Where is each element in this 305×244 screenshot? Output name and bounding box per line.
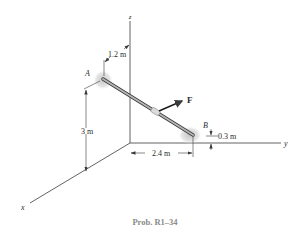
point-b-label: B — [203, 121, 208, 130]
statics-diagram: z y x 3 m 1.2 m F A B 2.4 m 0.3 m Prob. … — [0, 0, 305, 244]
dim-1.2m-arrow-right — [124, 45, 129, 49]
x-axis — [30, 143, 130, 203]
point-a-label: A — [84, 69, 90, 78]
y-axis-label: y — [283, 139, 288, 148]
figure-caption: Prob. R1–34 — [132, 217, 178, 227]
dim-2.4m-label: 2.4 m — [152, 149, 171, 158]
z-axis-label: z — [128, 13, 132, 21]
dim-1.2m-label: 1.2 m — [108, 50, 127, 59]
x-axis-label: x — [20, 203, 25, 212]
force-arrow — [159, 101, 182, 111]
dim-3m-label: 3 m — [81, 127, 94, 136]
force-label: F — [187, 95, 193, 105]
rod — [103, 79, 193, 135]
dim-0.3m-label: 0.3 m — [218, 132, 237, 141]
collar — [150, 107, 160, 116]
